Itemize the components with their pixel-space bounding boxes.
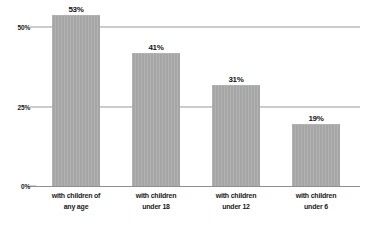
- category-label-3-line1: with children: [276, 190, 356, 201]
- category-label-1-line1: with children: [116, 190, 196, 201]
- y-tick-label-25: 25%: [18, 103, 30, 110]
- bar-group-0: 53%: [52, 6, 100, 186]
- bar-value-label-0: 53%: [52, 5, 100, 14]
- category-label-3: with children under 6: [276, 190, 356, 212]
- category-label-0-line2: any age: [36, 201, 116, 212]
- bars-layer: 53% 41% 31% 19%: [36, 6, 360, 186]
- bar-value-label-2: 31%: [212, 75, 260, 84]
- category-label-1-line2: under 18: [116, 201, 196, 212]
- category-label-3-line2: under 6: [276, 201, 356, 212]
- category-label-0: with children of any age: [36, 190, 116, 212]
- category-label-2-line1: with children: [196, 190, 276, 201]
- bar-group-2: 31%: [212, 6, 260, 186]
- y-tick-label-50: 50%: [18, 24, 30, 31]
- category-labels: with children of any age with children u…: [36, 190, 360, 226]
- bar-with-children-under-12[interactable]: [212, 85, 260, 186]
- bar-value-label-1: 41%: [132, 43, 180, 52]
- bar-group-1: 41%: [132, 6, 180, 186]
- category-label-2: with children under 12: [196, 190, 276, 212]
- bar-chart: 50% 25% 0% 53% 41%: [0, 0, 368, 229]
- category-label-1: with children under 18: [116, 190, 196, 212]
- plot-area: 50% 25% 0% 53% 41%: [36, 6, 360, 186]
- bar-group-3: 19%: [292, 6, 340, 186]
- axis-baseline: [28, 186, 360, 187]
- y-tick-label-0: 0%: [21, 183, 30, 190]
- bar-with-children-under-18[interactable]: [132, 53, 180, 186]
- category-label-2-line2: under 12: [196, 201, 276, 212]
- bar-value-label-3: 19%: [292, 114, 340, 123]
- category-label-0-line1: with children of: [36, 190, 116, 201]
- bar-with-children-under-6[interactable]: [292, 124, 340, 186]
- bar-with-children-any-age[interactable]: [52, 15, 100, 186]
